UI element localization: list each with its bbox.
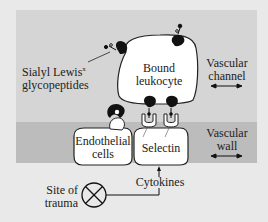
vascular-channel-label: Vascular channel [203,57,251,83]
trauma-label-line1: Site of [46,183,78,197]
wall-label-line1: Vascular [206,126,247,140]
wall-label-line2: wall [217,139,238,153]
endothelial-label-line1: Endothelial [75,134,130,148]
endothelial-label-line2: cells [92,147,114,161]
sialyl-label-line2: glycopeptides [22,78,89,92]
ligand-dot [115,110,119,114]
trauma-label: Site of trauma [36,184,78,210]
trauma-site-icon [82,183,106,207]
endothelial-bump [110,118,125,130]
sialyl-label-line1: Sialyl Lewis [22,65,82,79]
vascular-wall-label: Vascular wall [203,127,251,153]
leukocyte-label-line2: leukocyte [136,74,183,88]
arrow-head-icon [157,166,161,171]
sialyl-superscript: x [82,65,86,73]
channel-label-line2: channel [208,69,245,83]
endothelial-label: Endothelial cells [73,135,133,161]
selectin-label: Selectin [134,142,188,155]
cytokines-label: Cytokines [135,176,185,189]
trauma-label-line2: trauma [45,196,78,210]
leukocyte-label: Bound leukocyte [134,62,184,88]
sialyl-label: Sialyl Lewisx glycopeptides [22,63,89,92]
trauma-connector-line [106,188,159,195]
leukocyte-label-line1: Bound [143,61,175,75]
channel-label-line1: Vascular [206,56,247,70]
